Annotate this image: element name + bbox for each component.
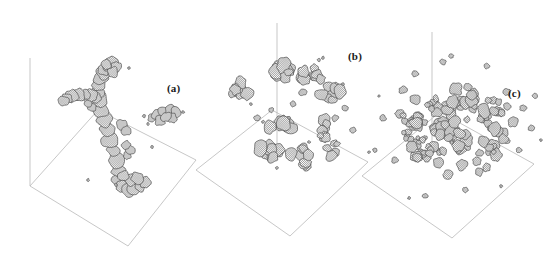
panel-b <box>185 0 375 268</box>
panel-a-canvas <box>0 0 200 268</box>
panel-c-canvas <box>355 0 552 268</box>
panel-label-b: (b) <box>348 50 362 62</box>
panel-label-c: (c) <box>508 87 521 99</box>
panel-a <box>0 0 200 268</box>
panel-b-canvas <box>185 0 375 268</box>
cluster-group-a <box>40 50 196 204</box>
cluster-group-b <box>214 50 365 176</box>
panel-c <box>355 0 552 268</box>
cluster-group-c <box>364 51 546 201</box>
panel-label-a: (a) <box>167 82 180 94</box>
figure-root: (a) (b) (c) <box>0 0 552 268</box>
